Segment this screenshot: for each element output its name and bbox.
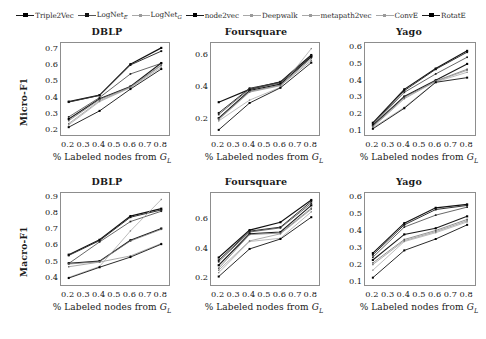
data-point-marker	[99, 266, 101, 268]
data-point-marker	[466, 221, 467, 222]
data-point-marker	[129, 216, 131, 218]
x-tick-label: 0.2	[211, 139, 224, 149]
series-lognet-g	[372, 56, 468, 125]
x-tick-label: 0.7	[288, 139, 301, 149]
x-tick-label: 0.3	[226, 139, 239, 149]
y-tick-label: 0.4	[195, 243, 208, 253]
series-conve	[372, 221, 468, 271]
data-point-marker	[310, 56, 312, 58]
x-axis-label: % Labeled nodes from GL	[194, 152, 334, 165]
y-axis-label: Macro-F1	[17, 212, 31, 292]
legend-marker-icon	[376, 12, 394, 19]
data-point-marker	[372, 270, 373, 271]
legend-item-rotate: RotatE	[422, 11, 466, 20]
y-tick-labels: 0.20.30.40.50.60.7	[34, 42, 58, 136]
data-point-marker	[310, 62, 312, 64]
data-point-marker	[68, 124, 69, 125]
y-tick-label: 0.8	[45, 207, 58, 217]
panel-title: Foursquare	[180, 26, 332, 37]
data-point-marker	[311, 48, 312, 49]
y-tick-label: 0.7	[45, 223, 58, 233]
series-line	[373, 207, 467, 257]
panel-micro-yago: Yago 0.10.20.30.40.50.6 0.20.30.40.50.60…	[332, 26, 486, 176]
series-rotate	[372, 224, 468, 279]
data-point-marker	[218, 264, 220, 266]
x-tick-label: 0.5	[257, 139, 270, 149]
y-tick-labels: 0.40.50.60.70.80.9	[34, 192, 58, 286]
panel-title: Yago	[332, 26, 486, 37]
x-axis-label-symbol: G	[312, 152, 319, 162]
data-point-marker	[372, 262, 374, 264]
x-tick-label: 0.4	[92, 289, 105, 299]
data-point-marker	[310, 204, 312, 206]
x-tick-label: 0.3	[381, 289, 394, 299]
plot-area	[210, 42, 320, 136]
data-point-marker	[218, 120, 219, 121]
x-axis-label-text: % Labeled nodes from	[360, 152, 467, 162]
data-point-marker	[160, 210, 162, 212]
y-tick-label: 0.2	[349, 108, 362, 118]
data-point-marker	[403, 233, 405, 235]
y-tick-label: 0.4	[349, 75, 362, 85]
x-tick-label: 0.2	[61, 289, 74, 299]
legend-item-node2vec: node2vec	[186, 11, 239, 20]
data-point-marker	[68, 266, 69, 267]
x-axis-label: % Labeled nodes from GL	[194, 302, 334, 315]
series-lognet-g	[68, 210, 162, 264]
data-point-marker	[466, 220, 467, 221]
data-point-marker	[130, 221, 132, 223]
panel-row-macro-f1: DBLP Macro-F1 0.40.50.60.70.80.9 0.20.30…	[0, 176, 486, 326]
plot-area	[364, 192, 476, 286]
series-line	[219, 56, 312, 113]
y-tick-label: 0.3	[349, 91, 362, 101]
data-point-marker	[372, 277, 374, 279]
data-point-marker	[311, 209, 312, 210]
data-point-marker	[99, 101, 100, 102]
legend-marker-icon	[78, 12, 96, 19]
y-tick-label: 0.3	[349, 242, 362, 252]
data-point-marker	[129, 256, 131, 258]
y-tick-label: 0.1	[349, 125, 362, 135]
x-tick-label: 0.5	[412, 289, 425, 299]
series-conve	[68, 199, 162, 278]
data-point-marker	[68, 120, 70, 122]
data-point-marker	[280, 227, 282, 229]
data-point-marker	[310, 201, 312, 203]
x-tick-label: 0.3	[226, 289, 239, 299]
data-point-marker	[249, 241, 250, 242]
series-lognet-e	[68, 50, 162, 103]
series-line	[69, 67, 162, 124]
series-rotate	[68, 68, 163, 128]
series-line	[373, 78, 467, 129]
series-line	[69, 63, 162, 119]
series-canvas	[61, 43, 169, 135]
series-lognet-g	[68, 63, 162, 118]
series-canvas	[365, 193, 475, 285]
data-point-marker	[311, 211, 312, 212]
series-line	[69, 211, 162, 263]
data-point-marker	[279, 238, 281, 240]
data-point-marker	[249, 99, 250, 100]
data-point-marker	[435, 68, 437, 70]
legend-item-lognet: LogNetG	[132, 10, 182, 20]
x-tick-label: 0.8	[304, 289, 317, 299]
y-tick-label: 0.2	[195, 272, 208, 282]
x-axis-label-subscript: L	[474, 157, 478, 165]
plot-area	[60, 42, 170, 136]
data-point-marker	[218, 257, 220, 259]
y-tick-label: 0.6	[195, 49, 208, 59]
plot-area	[60, 192, 170, 286]
y-tick-label: 0.4	[195, 81, 208, 91]
data-point-marker	[466, 224, 468, 226]
data-point-marker	[403, 224, 405, 226]
series-line	[373, 225, 467, 278]
legend-item-label: RotatE	[441, 11, 466, 20]
y-tick-labels: 0.10.20.30.40.50.6	[338, 192, 362, 286]
y-tick-label: 0.7	[45, 43, 58, 53]
y-tick-label: 0.4	[45, 272, 58, 282]
series-rotate	[372, 77, 468, 130]
series-canvas	[61, 193, 169, 285]
series-deepwalk	[372, 69, 468, 127]
legend-item-label: node2vec	[205, 11, 239, 20]
y-tick-labels: 0.10.20.30.40.50.6	[338, 42, 362, 136]
